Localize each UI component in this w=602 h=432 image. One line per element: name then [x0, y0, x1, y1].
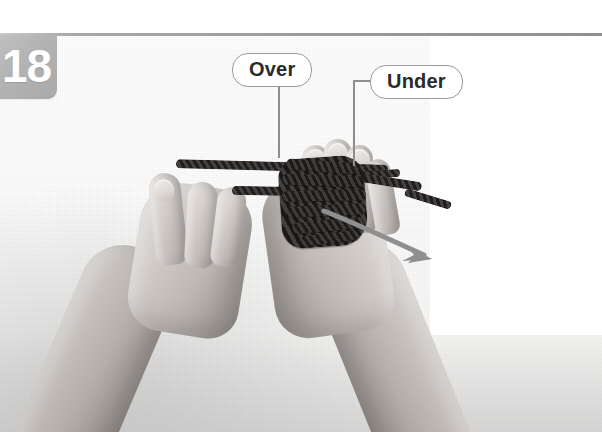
- thumbnail-icon: [153, 178, 175, 202]
- header-divider: [0, 33, 602, 36]
- instruction-photo: [0, 35, 602, 432]
- step-number-value: 18: [2, 43, 51, 89]
- callout-over-label: Over: [249, 58, 295, 80]
- callout-under: Under: [370, 65, 463, 99]
- direction-arrow-icon: [320, 203, 460, 273]
- step-illustration-page: 18 Over Under: [0, 0, 602, 432]
- callout-over: Over: [232, 53, 312, 87]
- under-leader-line-vertical: [353, 80, 355, 166]
- rope-coil-wrap: [282, 189, 366, 201]
- callout-under-label: Under: [387, 70, 446, 92]
- step-number-badge: 18: [0, 35, 57, 99]
- over-leader-line: [278, 86, 280, 158]
